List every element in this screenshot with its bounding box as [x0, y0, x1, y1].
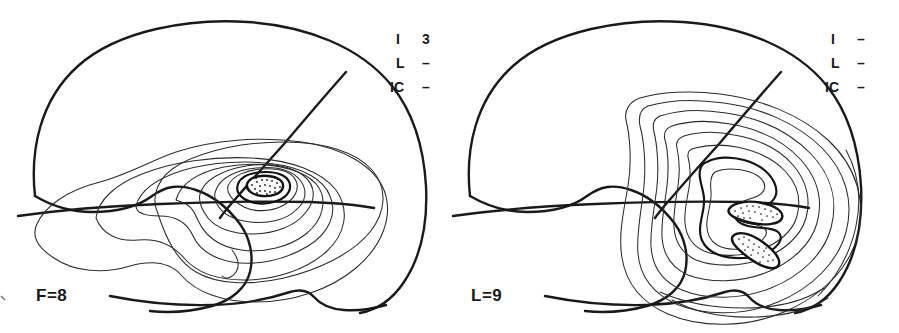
legend-value-1-right: – [857, 55, 865, 71]
legend-key-2-left: IC [390, 79, 404, 95]
contour-level-2-left [35, 139, 388, 302]
legend-value-0-right: – [857, 31, 865, 47]
legend-value-1-left: – [422, 55, 430, 71]
contour-level-5-left [176, 164, 323, 251]
legend-value-0-left: 3 [422, 31, 430, 47]
legend-value-2-left: – [422, 79, 430, 95]
peak-core-left [247, 176, 283, 196]
legend-key-0-right: I [831, 31, 835, 47]
brain-contour-figure: I 3 L – IC – F=8 [0, 0, 899, 333]
margin-artifact [1, 296, 5, 300]
panel-label-left: F=8 [36, 286, 67, 305]
legend-right: I – L – IC – [825, 31, 865, 95]
legend-key-1-right: L [831, 55, 840, 71]
left-panel: I 3 L – IC – F=8 [18, 21, 430, 313]
temporal-base-left [110, 290, 386, 310]
legend-value-2-right: – [857, 79, 865, 95]
contour-tail-left [222, 250, 238, 278]
legend-left: I 3 L – IC – [390, 31, 430, 95]
cerebrum-outline-left [34, 21, 426, 313]
legend-key-2-right: IC [825, 79, 839, 95]
legend-key-0-left: I [396, 31, 400, 47]
panel-label-right: L=9 [471, 286, 502, 305]
legend-key-1-left: L [396, 55, 405, 71]
right-panel: I – L – IC – L=9 [453, 21, 865, 324]
